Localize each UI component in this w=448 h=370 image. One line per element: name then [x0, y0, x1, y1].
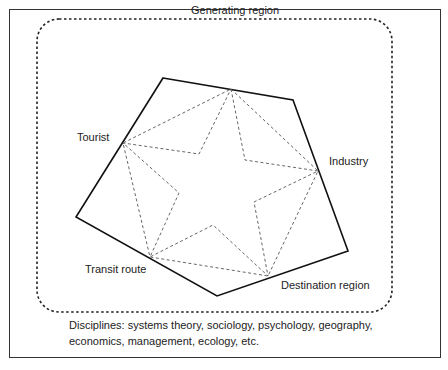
tourism-system-diagram [0, 0, 448, 370]
disciplines-caption: Disciplines: systems theory, sociology, … [69, 317, 373, 349]
caption-line-1: Disciplines: systems theory, sociology, … [69, 317, 373, 333]
label-tourist: Tourist [77, 131, 109, 144]
label-generating-region: Generating region [191, 4, 279, 17]
label-industry: Industry [329, 155, 368, 168]
inner-star [123, 89, 318, 276]
label-transit-route: Transit route [85, 263, 146, 276]
label-destination-region: Destination region [281, 279, 370, 292]
caption-line-2: economics, management, ecology, etc. [69, 333, 373, 349]
node-links [123, 89, 318, 276]
